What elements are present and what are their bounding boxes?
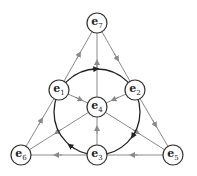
node-label-e3: e3 [86, 146, 108, 162]
arrow-icon [77, 54, 80, 59]
circle-arrow-icon [133, 131, 136, 136]
fano-plane-diagram: e7e1e2e4e6e3e5 [0, 0, 197, 176]
arrow-icon [38, 120, 41, 125]
arrow-icon [75, 97, 80, 99]
circle-arrow-icon [90, 69, 96, 70]
node-label-e2: e2 [124, 81, 146, 97]
arrow-icon [152, 120, 155, 125]
node-label-e1: e1 [48, 81, 70, 97]
node-label-e7: e7 [86, 14, 108, 30]
circle-arrow-icon [70, 146, 75, 149]
arrow-icon [113, 97, 118, 99]
arrow-icon [115, 54, 118, 59]
node-label-e4: e4 [86, 98, 108, 114]
node-label-e6: e6 [10, 146, 32, 162]
node-label-e5: e5 [162, 146, 184, 162]
